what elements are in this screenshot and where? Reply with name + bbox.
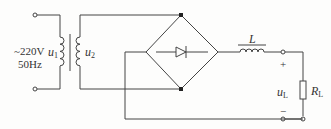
secondary-coil-icon <box>76 37 80 66</box>
diode-icon <box>176 46 186 58</box>
primary-voltage-label: u1 <box>48 46 58 62</box>
output-terminal-plus <box>281 50 285 54</box>
junction-dot-top <box>179 13 183 17</box>
input-terminal-bottom <box>33 87 37 91</box>
minus-sign: − <box>280 105 286 117</box>
plus-sign: + <box>280 58 286 70</box>
source-voltage-label: ~220V <box>14 45 44 57</box>
primary-top-lead <box>37 15 60 37</box>
positive-output-wire <box>285 52 303 81</box>
load-resistor-label: RL <box>311 85 323 101</box>
junction-dot-bottom <box>179 87 183 91</box>
circuit-diagram: ~220V 50Hz u1 u2 L + − uL RL <box>0 0 331 129</box>
load-resistor-icon <box>300 81 306 99</box>
secondary-top-wire <box>80 15 181 37</box>
source-frequency-label: 50Hz <box>18 58 42 70</box>
inductor-label: L <box>249 33 256 45</box>
secondary-bottom-wire <box>80 66 181 89</box>
output-voltage-label: uL <box>277 86 288 102</box>
secondary-voltage-label: u2 <box>85 46 95 62</box>
input-terminal-top <box>33 13 37 17</box>
inductor-icon <box>240 49 264 52</box>
primary-coil-icon <box>60 37 64 66</box>
